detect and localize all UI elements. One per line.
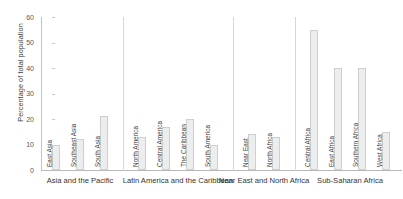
y-tick-label: 60 <box>26 14 34 21</box>
group-separator <box>295 17 296 171</box>
y-tick-label: 40 <box>26 65 34 72</box>
group-separator <box>233 17 234 171</box>
bar-category-label: North Africa <box>266 133 273 167</box>
bar-category-label: Southern Africa <box>352 123 359 167</box>
bar-category-label: East Africa <box>328 136 335 167</box>
bar-category-label: Central America <box>156 121 163 167</box>
x-axis-line <box>41 170 402 171</box>
bar <box>100 116 108 170</box>
bar-category-label: Central Africa <box>304 128 311 167</box>
bar-category-label: Near East <box>242 138 249 167</box>
bar <box>138 137 146 170</box>
y-tick-label: 20 <box>26 116 34 123</box>
bar <box>358 68 366 170</box>
group-label: Sub-Saharan Africa <box>290 176 403 185</box>
bar <box>248 134 256 170</box>
bar <box>186 119 194 170</box>
y-tick-label: 30 <box>26 90 34 97</box>
bar <box>210 145 218 171</box>
bar <box>334 68 342 170</box>
y-tick-label: 10 <box>26 141 34 148</box>
bar-category-label: South Asia <box>94 136 101 167</box>
bar <box>272 137 280 170</box>
bar <box>76 139 84 170</box>
y-tick-label: 0 <box>30 167 34 174</box>
bar-category-label: North America <box>132 126 139 167</box>
bar-category-label: West Africa <box>376 134 383 167</box>
bar <box>382 132 390 170</box>
bar-category-label: Southeast Asia <box>70 124 77 167</box>
group-separator <box>123 17 124 171</box>
bar-chart: Percentage of total population 010203040… <box>0 0 403 199</box>
bar-category-label: The Caribbean <box>180 124 187 167</box>
bar <box>310 30 318 170</box>
bar <box>52 145 60 171</box>
y-axis-tick-labels: 0102030405060 <box>14 0 36 199</box>
y-tick-label: 50 <box>26 39 34 46</box>
bar-category-label: South America <box>204 125 211 167</box>
bar <box>162 127 170 170</box>
plot-area: East AsiaSoutheast AsiaSouth AsiaNorth A… <box>42 17 402 170</box>
bar-category-label: East Asia <box>46 140 53 167</box>
